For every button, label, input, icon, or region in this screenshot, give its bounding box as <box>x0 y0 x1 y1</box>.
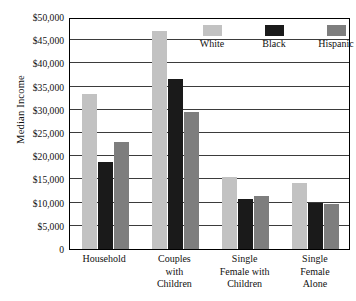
y-axis-tick-label: $10,000 <box>2 199 64 209</box>
x-axis-tick-label-line: Single <box>280 253 350 266</box>
plot-area: WhiteBlackHispanic <box>69 18 350 250</box>
bar-chart: Median Income WhiteBlackHispanic $50,000… <box>0 0 356 301</box>
x-axis-tick-label: Household <box>69 253 139 266</box>
x-axis-tick-label: SingleFemaleAlone <box>280 253 350 291</box>
legend-label: Black <box>262 38 285 49</box>
bar <box>184 112 199 249</box>
x-axis-tick-label-line: Couples <box>139 253 209 266</box>
bar <box>308 203 323 249</box>
legend-swatch <box>265 25 284 36</box>
y-axis-tick-label: $45,000 <box>2 36 64 46</box>
legend-item: White <box>186 25 238 49</box>
bar <box>168 79 183 249</box>
legend-item: Black <box>248 25 300 49</box>
bar <box>292 183 307 249</box>
bar <box>238 199 253 249</box>
legend-item: Hispanic <box>310 25 356 49</box>
y-axis-tick-label: 0 <box>2 245 64 255</box>
bar-group <box>222 19 269 249</box>
legend-swatch <box>327 25 346 36</box>
x-axis-tick-label-line: Female with <box>210 266 280 279</box>
x-axis-tick-label-line: Alone <box>280 278 350 291</box>
y-axis-tick-label: $25,000 <box>2 129 64 139</box>
x-axis-tick-label-line: Household <box>69 253 139 266</box>
bar <box>98 162 113 249</box>
x-axis-tick-label-line: Female <box>280 266 350 279</box>
x-axis-tick-label-line: with <box>139 266 209 279</box>
bar-group <box>152 19 199 249</box>
bar <box>114 142 129 249</box>
x-axis-tick-label-line: Children <box>139 278 209 291</box>
y-axis-tick-label: $5,000 <box>2 222 64 232</box>
x-axis-tick-label-line: Children <box>210 278 280 291</box>
legend-label: Hispanic <box>318 38 354 49</box>
x-axis-tick-labels: HouseholdCoupleswithChildrenSingleFemale… <box>69 253 350 299</box>
legend-label: White <box>200 38 224 49</box>
y-axis-tick-label: $50,000 <box>2 13 64 23</box>
x-axis-tick-label: CoupleswithChildren <box>139 253 209 291</box>
bar-group <box>292 19 339 249</box>
bar <box>82 94 97 249</box>
bar <box>324 204 339 249</box>
y-axis-tick-label: $30,000 <box>2 106 64 116</box>
y-axis-tick-label: $15,000 <box>2 175 64 185</box>
y-axis-tick-label: $35,000 <box>2 83 64 93</box>
x-axis-tick-label-line: Single <box>210 253 280 266</box>
legend-swatch <box>203 25 222 36</box>
bar <box>152 31 167 249</box>
bar <box>254 196 269 249</box>
y-axis-tick-label: $40,000 <box>2 59 64 69</box>
bars-layer <box>70 19 349 249</box>
bar <box>222 177 237 249</box>
y-axis-tick-label: $20,000 <box>2 152 64 162</box>
bar-group <box>82 19 129 249</box>
chart-legend: WhiteBlackHispanic <box>186 25 356 49</box>
x-axis-tick-label: SingleFemale withChildren <box>210 253 280 291</box>
